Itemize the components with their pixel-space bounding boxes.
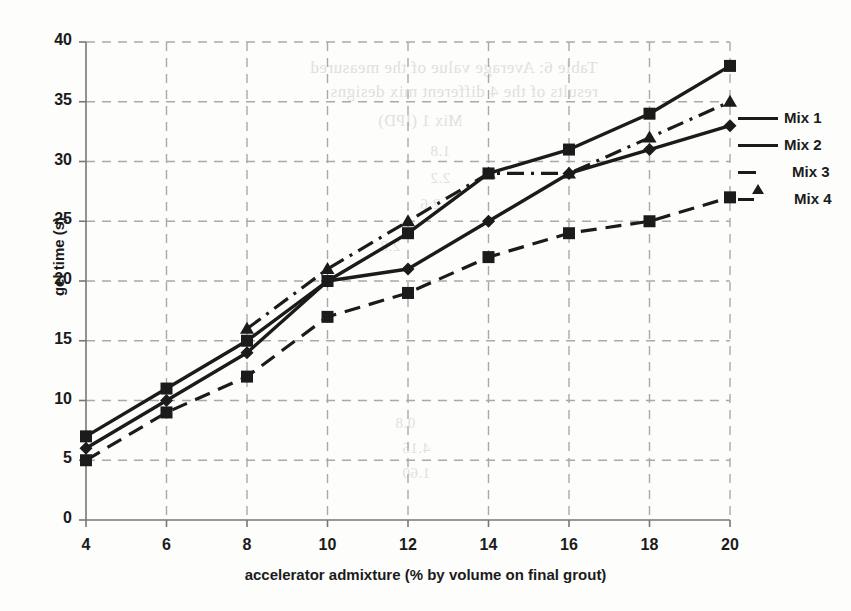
y-axis-tick-label: 0 <box>28 509 72 527</box>
legend-label-mix-4: Mix 4 <box>794 190 832 207</box>
x-axis-tick-label: 12 <box>388 536 428 554</box>
y-axis-title: gel time (s) <box>50 177 67 337</box>
plot-area <box>0 0 851 611</box>
chart-legend: Mix 1 Mix 2 Mix 3 Mix 4 <box>738 104 848 212</box>
data-point-square-marker <box>563 227 575 239</box>
legend-item-mix-3[interactable]: Mix 3 <box>738 158 848 185</box>
legend-marker-square-dashed-icon <box>738 191 778 207</box>
x-axis-tick-label: 14 <box>469 536 509 554</box>
x-axis-tick-label: 6 <box>147 536 187 554</box>
data-point-square-marker <box>724 191 736 203</box>
x-axis-tick-label: 10 <box>308 536 348 554</box>
y-axis-tick-label: 40 <box>28 31 72 49</box>
x-axis-tick-label: 16 <box>549 536 589 554</box>
x-axis-title: accelerator admixture (% by volume on fi… <box>0 566 851 583</box>
y-axis-tick-label: 15 <box>28 330 72 348</box>
y-axis-tick-label: 30 <box>28 151 72 169</box>
data-point-square-marker <box>402 227 414 239</box>
data-point-square-marker <box>322 275 334 287</box>
gel-time-chart: Table 6: Average value of the measured r… <box>0 0 851 611</box>
y-axis-tick-label: 25 <box>28 210 72 228</box>
data-point-triangle-marker <box>321 262 335 274</box>
data-point-triangle-marker <box>723 95 737 107</box>
y-axis-tick-label: 10 <box>28 390 72 408</box>
data-point-square-marker <box>241 335 253 347</box>
data-point-square-marker <box>161 406 173 418</box>
legend-item-mix-2[interactable]: Mix 2 <box>738 131 848 158</box>
x-axis-tick-label: 20 <box>710 536 750 554</box>
legend-marker-diamond-icon <box>738 110 778 126</box>
data-point-square-marker <box>241 371 253 383</box>
data-point-square-marker <box>161 383 173 395</box>
legend-label-mix-1: Mix 1 <box>784 109 822 126</box>
legend-marker-square-icon <box>738 137 778 153</box>
legend-label-mix-3: Mix 3 <box>792 163 830 180</box>
data-point-triangle-marker <box>643 131 657 143</box>
data-point-square-marker <box>80 454 92 466</box>
x-axis-tick-label: 18 <box>630 536 670 554</box>
y-axis-tick-label: 20 <box>28 270 72 288</box>
legend-item-mix-1[interactable]: Mix 1 <box>738 104 848 131</box>
data-point-diamond-marker <box>643 143 656 156</box>
data-point-square-marker <box>80 430 92 442</box>
data-point-square-marker <box>644 215 656 227</box>
y-axis-tick-label: 35 <box>28 91 72 109</box>
x-axis-tick-label: 4 <box>66 536 106 554</box>
data-point-triangle-marker <box>401 214 415 226</box>
data-point-diamond-marker <box>724 119 737 132</box>
data-point-square-marker <box>563 144 575 156</box>
data-point-square-marker <box>724 60 736 72</box>
data-point-square-marker <box>483 251 495 263</box>
data-point-square-marker <box>402 287 414 299</box>
x-axis-tick-label: 8 <box>227 536 267 554</box>
data-point-square-marker <box>322 311 334 323</box>
legend-label-mix-2: Mix 2 <box>784 136 822 153</box>
legend-marker-triangle-icon <box>738 164 778 180</box>
y-axis-tick-label: 5 <box>28 449 72 467</box>
data-point-square-marker <box>644 108 656 120</box>
